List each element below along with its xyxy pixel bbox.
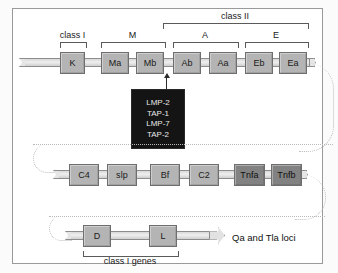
lmp-tap-pointer-arrow-icon [166, 77, 167, 89]
lmp-tap-line-2: TAP-1 [147, 109, 169, 120]
qa-tla-loci-label: Qa and Tla loci [232, 232, 296, 243]
bracket-region-m [101, 42, 166, 48]
connector-row1-to-row2-span [33, 144, 333, 145]
gene-box-slp[interactable]: slp [107, 164, 137, 186]
gene-box-Mb[interactable]: Mb [136, 52, 164, 74]
bracket-region-e [245, 42, 309, 48]
figure-canvas: K Ma Mb Ab Aa Eb Ea class I M A E class … [0, 0, 338, 273]
connector-row2-to-row3-right [295, 175, 326, 220]
bracket-label-class-1: class I [47, 30, 98, 40]
gene-box-Eb[interactable]: Eb [245, 52, 273, 74]
gene-box-C4[interactable]: C4 [69, 164, 99, 186]
lmp-tap-line-3: LMP-7 [146, 119, 170, 130]
bracket-label-region-e: E [245, 30, 307, 40]
gene-box-Ab[interactable]: Ab [173, 52, 201, 74]
lmp-tap-line-4: TAP-2 [147, 130, 169, 141]
bracket-class-1 [60, 42, 87, 48]
gene-box-Ma[interactable]: Ma [101, 52, 129, 74]
row3-arrow-terminus-icon [209, 227, 225, 244]
gene-box-K[interactable]: K [60, 52, 85, 74]
gene-box-D[interactable]: D [83, 225, 111, 247]
bracket-label-class-1-genes: class I genes [70, 256, 190, 266]
connector-row1-to-row2-right [299, 63, 334, 152]
lmp-tap-line-1: LMP-2 [146, 98, 170, 109]
gene-box-Aa[interactable]: Aa [209, 52, 237, 74]
connector-row1-to-row2-left [33, 144, 60, 173]
figure-frame: K Ma Mb Ab Aa Eb Ea class I M A E class … [12, 8, 323, 264]
gene-box-C2[interactable]: C2 [189, 164, 219, 186]
bracket-label-class-2: class II [163, 11, 307, 21]
connector-row2-to-row3-span [49, 216, 325, 217]
bracket-label-region-a: A [173, 30, 237, 40]
peptide-transporter-box: LMP-2 TAP-1 LMP-7 TAP-2 [131, 89, 185, 149]
bracket-class-2 [163, 23, 309, 29]
gene-box-Bf[interactable]: Bf [150, 164, 180, 186]
bracket-region-a [173, 42, 239, 48]
bracket-label-region-m: M [101, 30, 164, 40]
gene-box-L[interactable]: L [149, 225, 177, 247]
gene-box-Tnfa[interactable]: Tnfa [234, 164, 265, 186]
